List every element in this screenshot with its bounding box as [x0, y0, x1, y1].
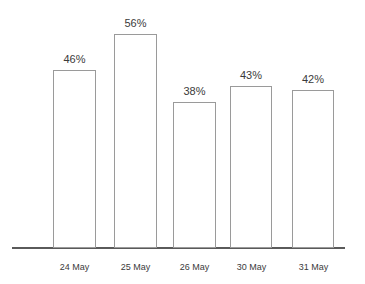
category-label-31-may: 31 May	[283, 262, 344, 273]
bar-25-may[interactable]	[114, 34, 157, 248]
plot-area: 46% 24 May 56% 25 May 38% 26 May 43% 30 …	[0, 0, 365, 284]
bar-26-may[interactable]	[173, 102, 216, 248]
category-label-25-may: 25 May	[105, 262, 166, 273]
value-label-30-may: 43%	[230, 69, 272, 82]
value-label-25-may: 56%	[114, 17, 157, 30]
value-label-24-may: 46%	[53, 53, 96, 66]
category-label-26-may: 26 May	[164, 262, 225, 273]
category-label-24-may: 24 May	[44, 262, 105, 273]
bar-24-may[interactable]	[53, 70, 96, 248]
category-label-30-may: 30 May	[221, 262, 282, 273]
bar-30-may[interactable]	[230, 86, 272, 248]
value-label-31-may: 42%	[292, 73, 334, 86]
value-label-26-may: 38%	[173, 85, 216, 98]
bar-chart: 46% 24 May 56% 25 May 38% 26 May 43% 30 …	[0, 0, 365, 284]
bar-31-may[interactable]	[292, 90, 334, 248]
